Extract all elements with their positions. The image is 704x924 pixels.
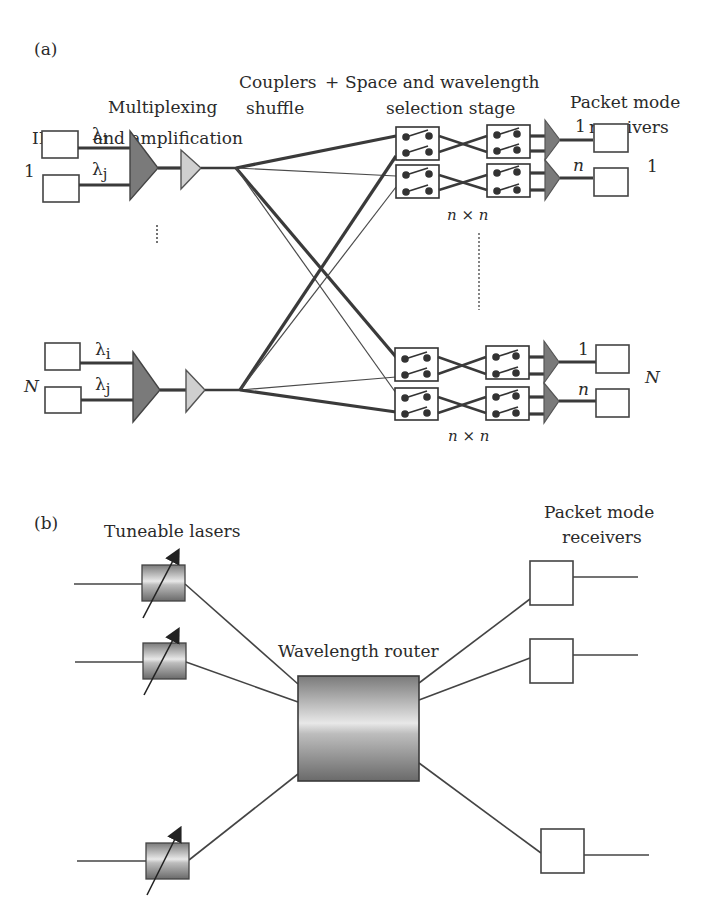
booster-amplifier-1 bbox=[181, 150, 201, 189]
ilm-N-i bbox=[45, 343, 80, 370]
diagram-canvas: (a) Multiplexing ILMs and amplification … bbox=[0, 0, 704, 924]
header-plus: + bbox=[325, 72, 339, 92]
ilm-1-j bbox=[43, 175, 79, 202]
demux-1b bbox=[545, 160, 560, 200]
panel-a: (a) Multiplexing ILMs and amplification … bbox=[23, 39, 680, 445]
demux-Nb bbox=[544, 383, 559, 423]
receiver-group-1-index: 1 bbox=[647, 156, 658, 176]
demux-Na bbox=[544, 341, 559, 383]
receiver-N-n bbox=[596, 389, 629, 417]
booster-amplifier-N bbox=[186, 370, 205, 412]
ilm-N-j bbox=[45, 387, 81, 413]
panel-b-tag: (b) bbox=[34, 513, 58, 533]
lambda-j-label: λj bbox=[92, 159, 107, 183]
panel-a-tag: (a) bbox=[34, 39, 57, 59]
header-multiplexing: Multiplexing bbox=[108, 97, 217, 117]
header-amplification: and amplification bbox=[93, 128, 243, 148]
panel-b: (b) Tuneable lasers Packet mode receiver… bbox=[34, 502, 654, 895]
receiver-N-1 bbox=[596, 345, 629, 373]
lambda-j-label-N: λj bbox=[95, 374, 110, 398]
group-1-index: 1 bbox=[24, 161, 35, 181]
receiver-group-N-index: N bbox=[644, 367, 661, 387]
header-shuffle: shuffle bbox=[246, 98, 304, 118]
demux-1a bbox=[545, 120, 560, 160]
mux-amplifier-N bbox=[133, 352, 160, 422]
output-n-label: n bbox=[573, 155, 584, 175]
output-1-label-N: 1 bbox=[578, 339, 589, 359]
switch-1c bbox=[487, 125, 530, 158]
receiver-1-n bbox=[594, 168, 628, 196]
group-N-index: N bbox=[23, 376, 40, 396]
packet-receiver-3 bbox=[541, 829, 584, 873]
switch-stage-N: 1 n N n × n bbox=[395, 339, 661, 445]
lambda-i-label-N: λi bbox=[95, 339, 111, 363]
receiver-1-1 bbox=[594, 124, 628, 152]
size-label-N: n × n bbox=[448, 427, 489, 445]
switch-stage-1: 1 n 1 n × n bbox=[396, 116, 658, 310]
header-selection-stage: selection stage bbox=[386, 98, 515, 118]
packet-receiver-1 bbox=[530, 561, 573, 605]
rx-label-line1: Packet mode bbox=[544, 502, 654, 522]
output-1-label: 1 bbox=[575, 116, 586, 136]
switch-1a bbox=[396, 127, 439, 160]
packet-receiver-2 bbox=[530, 639, 573, 683]
coupler-shuffle bbox=[236, 136, 396, 412]
wavelength-router bbox=[298, 676, 419, 781]
header-couplers: Couplers bbox=[239, 72, 316, 92]
output-n-label-N: n bbox=[578, 379, 589, 399]
header-space-wavelength: Space and wavelength bbox=[345, 72, 540, 92]
tuneable-laser-3 bbox=[146, 833, 189, 895]
wavelength-router-label: Wavelength router bbox=[278, 641, 440, 661]
tuneable-laser-2 bbox=[143, 634, 186, 695]
ilm-group-N: N λi λj bbox=[23, 339, 240, 422]
size-label-1: n × n bbox=[447, 206, 488, 224]
tuneable-lasers-label: Tuneable lasers bbox=[104, 521, 240, 541]
tuneable-laser-1 bbox=[142, 555, 185, 618]
rx-label-line2: receivers bbox=[562, 527, 642, 547]
header-packet-mode: Packet mode bbox=[570, 92, 680, 112]
ilm-1-i bbox=[42, 131, 78, 158]
